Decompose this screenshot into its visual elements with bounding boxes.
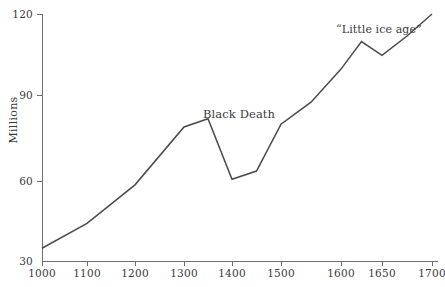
annotation-black-death: Black Death [203, 108, 275, 120]
population-series-line [42, 14, 432, 248]
plot-area [0, 0, 445, 287]
population-line-chart: Millions 120 90 60 30 1000 1100 1200 130… [0, 0, 445, 287]
annotation-little-ice-age: “Little ice age” [336, 24, 422, 36]
